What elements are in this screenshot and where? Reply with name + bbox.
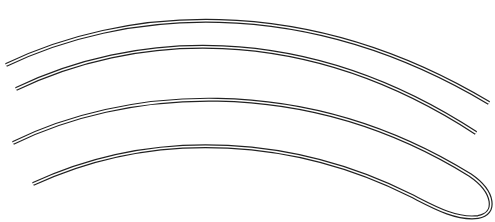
wire-drawing — [0, 0, 495, 222]
hairpin-wire — [13, 100, 491, 218]
wire-1 — [6, 21, 489, 103]
